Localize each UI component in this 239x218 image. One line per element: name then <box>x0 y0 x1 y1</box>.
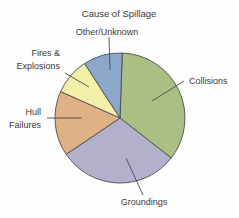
pie-label-hull-failures-line1: Hull <box>25 107 41 117</box>
pie-label-fires-explosions-line1: Fires & <box>31 48 60 58</box>
cause-of-spillage-pie-chart: Cause of Spillage Collisions Groundings … <box>0 0 239 218</box>
chart-title: Cause of Spillage <box>82 8 156 19</box>
pie-label-hull-failures-line2: Failures <box>9 120 42 130</box>
pie-label-fires-explosions-line2: Explosions <box>16 61 60 71</box>
pie-label-collisions: Collisions <box>189 76 228 86</box>
pie-label-other-unknown: Other/Unknown <box>76 27 139 37</box>
pie-chart-figure: Cause of Spillage Collisions Groundings … <box>0 0 239 218</box>
pie-label-groundings: Groundings <box>121 197 168 207</box>
